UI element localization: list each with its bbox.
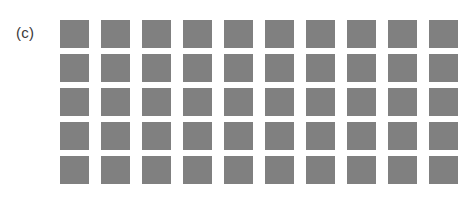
grid-square	[347, 88, 376, 116]
grid-square	[306, 122, 335, 150]
grid-square	[388, 20, 417, 48]
grid-square	[429, 20, 458, 48]
grid-square	[347, 20, 376, 48]
grid-square	[101, 54, 130, 82]
grid-square	[388, 88, 417, 116]
grid-square	[347, 122, 376, 150]
grid-square	[265, 88, 294, 116]
grid-square	[429, 156, 458, 184]
grid-square	[306, 156, 335, 184]
grid-square	[183, 54, 212, 82]
grid-square	[388, 122, 417, 150]
grid-square	[183, 122, 212, 150]
grid-square	[347, 54, 376, 82]
grid-square	[306, 20, 335, 48]
grid-square	[60, 122, 89, 150]
grid-square	[101, 122, 130, 150]
panel-label: (c)	[16, 24, 34, 42]
grid-square	[306, 54, 335, 82]
grid-square	[142, 20, 171, 48]
grid-square	[101, 20, 130, 48]
grid-square	[142, 122, 171, 150]
grid-square	[224, 20, 253, 48]
grid-square	[429, 54, 458, 82]
grid-square	[224, 156, 253, 184]
square-grid	[60, 20, 458, 184]
grid-square	[265, 20, 294, 48]
grid-square	[224, 122, 253, 150]
grid-square	[142, 156, 171, 184]
grid-square	[183, 20, 212, 48]
grid-square	[183, 88, 212, 116]
grid-square	[388, 156, 417, 184]
figure-panel: (c)	[0, 0, 461, 203]
grid-square	[429, 88, 458, 116]
grid-square	[60, 156, 89, 184]
grid-square	[224, 54, 253, 82]
grid-square	[306, 88, 335, 116]
grid-square	[388, 54, 417, 82]
grid-square	[347, 156, 376, 184]
grid-square	[265, 54, 294, 82]
grid-square	[142, 88, 171, 116]
grid-square	[60, 54, 89, 82]
grid-square	[60, 20, 89, 48]
grid-square	[101, 88, 130, 116]
grid-square	[60, 88, 89, 116]
grid-square	[224, 88, 253, 116]
grid-square	[265, 156, 294, 184]
grid-square	[429, 122, 458, 150]
grid-square	[183, 156, 212, 184]
grid-square	[101, 156, 130, 184]
grid-square	[265, 122, 294, 150]
grid-square	[142, 54, 171, 82]
